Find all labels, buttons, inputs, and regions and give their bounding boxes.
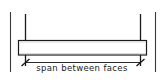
dimension-label: span between faces [0, 63, 164, 74]
beam-span-diagram: span between faces [0, 0, 164, 84]
beam-section [19, 41, 147, 56]
